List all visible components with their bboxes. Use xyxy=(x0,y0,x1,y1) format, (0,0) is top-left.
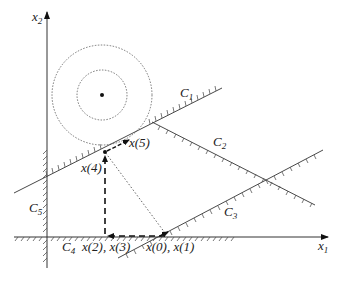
x2-axis-label: x2 xyxy=(31,9,43,26)
point-x2-x3-label: x(2), x(3) xyxy=(81,239,130,254)
c5-hatching xyxy=(43,150,47,262)
c3-label: C3 xyxy=(224,204,238,221)
labels: x2 x1 C1 C2 C3 C4 C5 x(4) x(5) x(2), x(3… xyxy=(29,9,328,256)
constraint-c2 xyxy=(152,122,315,207)
point-x4-label: x(4) xyxy=(80,160,102,175)
objective-contours xyxy=(52,45,152,145)
c1-label: C1 xyxy=(180,85,193,102)
diagram-canvas: x2 x1 C1 C2 C3 C4 C5 x(4) x(5) x(2), x(3… xyxy=(0,0,345,283)
search-path xyxy=(103,140,168,236)
x1-axis-label: x1 xyxy=(317,238,328,255)
optimum-point xyxy=(100,93,104,97)
constraint-diagram: x2 x1 C1 C2 C3 C4 C5 x(4) x(5) x(2), x(3… xyxy=(0,0,345,283)
c4-label: C4 xyxy=(62,239,76,256)
c2-label: C2 xyxy=(213,134,227,151)
point-x5-label: x(5) xyxy=(128,135,150,150)
constraint-c1 xyxy=(14,86,222,193)
point-x0-x1-label: x(0), x(1) xyxy=(145,239,194,254)
c5-label: C5 xyxy=(29,200,43,217)
